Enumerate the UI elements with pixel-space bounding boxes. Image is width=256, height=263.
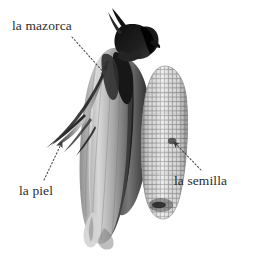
leader-line-piel <box>44 142 62 180</box>
label-la-mazorca: la mazorca <box>12 19 72 33</box>
label-la-piel: la piel <box>19 184 53 198</box>
leader-line-mazorca <box>72 37 106 75</box>
leader-lines-layer <box>0 0 256 263</box>
figure-canvas: la mazorca la piel la semilla <box>0 0 256 263</box>
leader-line-semilla <box>174 142 201 170</box>
label-la-semilla: la semilla <box>174 174 227 188</box>
